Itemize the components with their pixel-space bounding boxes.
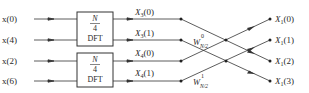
svg-text:0: 0 [201,33,204,39]
svg-text:4: 4 [93,65,97,74]
svg-text:DFT: DFT [87,34,102,43]
svg-text:X4(0): X4(0) [134,48,154,59]
dft-block-bottom: N 4 DFT [77,53,113,87]
svg-text:X3(1): X3(1) [134,28,154,39]
butterfly-arrows [247,26,255,74]
nodes [180,18,272,83]
svg-text:4: 4 [93,24,97,33]
output-label-2: X1(2) [274,56,294,67]
svg-text:X1(3): X1(3) [274,76,294,87]
svg-text:N: N [91,55,98,64]
dft-block-top: N 4 DFT [77,12,113,46]
svg-text:X3(0): X3(0) [134,7,154,18]
twiddle-label-0: WN/2 0 [193,33,208,49]
intermediate-label-3: X4(1) [134,68,154,79]
output-label-3: X1(3) [274,76,294,87]
output-label-0: X1(0) [274,14,294,25]
output-label-1: X1(1) [274,35,294,46]
svg-text:X1(1): X1(1) [274,35,294,46]
input-lines [34,18,77,82]
intermediate-label-1: X3(1) [134,28,154,39]
butterfly-diagram: x(0) x(4) x(2) x(6) N 4 DFT N 4 DFT X3(0… [0,0,309,93]
svg-text:X1(0): X1(0) [274,14,294,25]
svg-text:N: N [91,14,98,23]
svg-text:DFT: DFT [87,75,102,84]
intermediate-label-0: X3(0) [134,7,154,18]
svg-text:X4(1): X4(1) [134,68,154,79]
svg-text:1: 1 [201,73,204,79]
butterfly-lines [181,19,270,81]
input-label-0: x(0) [2,14,17,24]
svg-text:X1(2): X1(2) [274,56,294,67]
twiddle-label-1: WN/2 1 [193,73,208,89]
input-label-3: x(6) [2,76,17,86]
input-label-2: x(2) [2,56,17,66]
intermediate-label-2: X4(0) [134,48,154,59]
input-label-1: x(4) [2,35,17,45]
